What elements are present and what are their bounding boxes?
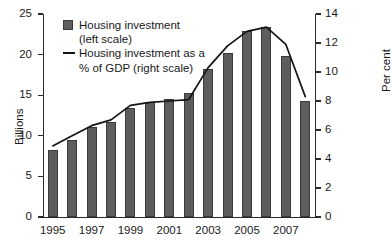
legend-item-bar: Housing investment (63, 18, 205, 32)
bar-swatch-icon (63, 20, 73, 30)
legend-line-label-line2: % of GDP (right scale) (79, 61, 193, 75)
legend-line-label-line1: Housing investment as a (79, 46, 205, 60)
legend-bar-label-line1: Housing investment (79, 18, 180, 32)
legend-item-line-sub: % of GDP (right scale) (63, 61, 205, 75)
line-swatch-icon (63, 52, 75, 54)
legend-bar-label-line2: (left scale) (79, 32, 132, 46)
legend-item-bar-sub: (left scale) (63, 32, 205, 46)
legend-item-line: Housing investment as a (63, 46, 205, 60)
chart-legend: Housing investment (left scale) Housing … (63, 18, 205, 75)
